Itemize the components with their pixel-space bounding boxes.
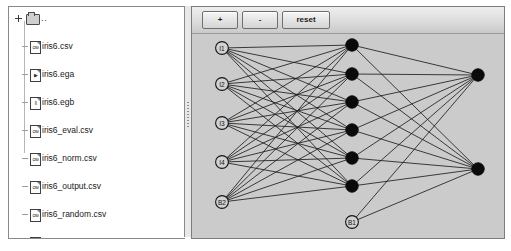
tree-item-label: iris6.csv xyxy=(42,39,73,53)
network-edge xyxy=(352,169,478,186)
node-label: I4 xyxy=(219,159,225,166)
hidden-node[interactable] xyxy=(346,124,358,136)
tree-item-label: iris6_train.csv xyxy=(42,235,94,239)
network-edge xyxy=(222,158,352,162)
file-icon-glyph: csv xyxy=(32,184,39,191)
zoom-in-button[interactable]: + xyxy=(202,11,238,29)
expand-collapse-handle[interactable] xyxy=(15,15,22,22)
csv-file-icon: csv xyxy=(30,41,41,54)
node-label: I2 xyxy=(219,81,225,88)
csv-file-icon: csv xyxy=(30,125,41,138)
tree-elbow xyxy=(22,214,28,215)
csv-file-icon: csv xyxy=(30,237,41,239)
network-edge xyxy=(352,75,478,222)
network-edge xyxy=(352,75,478,186)
node-label: O2 xyxy=(474,166,483,173)
tree-elbow xyxy=(22,186,28,187)
hidden-node[interactable] xyxy=(346,96,358,108)
network-edge xyxy=(352,74,478,75)
tree-item-label: iris6.egb xyxy=(42,95,74,109)
tree-item-label: iris6_output.csv xyxy=(42,179,101,193)
tree-item-7[interactable]: csviris6_train.csv xyxy=(9,235,185,239)
splitter-grip[interactable] xyxy=(187,102,189,128)
network-edge xyxy=(222,74,352,123)
tree-root-row[interactable]: .. xyxy=(9,11,185,25)
network-edge xyxy=(222,48,352,102)
node-label: I3 xyxy=(219,120,225,127)
tree-item-label: iris6_eval.csv xyxy=(42,123,93,137)
tree-elbow xyxy=(22,102,28,103)
network-edge xyxy=(352,169,478,222)
csv-file-icon: csv xyxy=(30,209,41,222)
tree-item-2[interactable]: ‖iris6.egb xyxy=(9,95,185,109)
tree-item-label: iris6.ega xyxy=(42,67,74,81)
network-edge xyxy=(352,45,478,169)
file-icon-glyph: csv xyxy=(32,156,39,163)
tree-elbow xyxy=(22,74,28,75)
network-edge xyxy=(222,158,352,202)
csv-file-icon: csv xyxy=(30,181,41,194)
hidden-node[interactable] xyxy=(346,68,358,80)
reset-view-button[interactable]: reset xyxy=(282,11,330,29)
node-label: B2 xyxy=(218,199,226,206)
hidden-node[interactable] xyxy=(346,152,358,164)
tree-item-4[interactable]: csviris6_norm.csv xyxy=(9,151,185,165)
application-window: ..csviris6.csv▶iris6.ega‖iris6.egbcsviri… xyxy=(0,0,511,251)
file-tree-list[interactable]: ..csviris6.csv▶iris6.ega‖iris6.egbcsviri… xyxy=(9,11,185,165)
file-tree-panel[interactable]: ..csviris6.csv▶iris6.ega‖iris6.egbcsviri… xyxy=(8,6,185,239)
hidden-node[interactable] xyxy=(346,39,358,51)
file-icon-glyph: csv xyxy=(32,212,39,219)
node-label: B1 xyxy=(348,219,356,226)
network-edge xyxy=(222,45,352,162)
tree-elbow xyxy=(22,46,28,47)
tree-item-0[interactable]: csviris6.csv xyxy=(9,39,185,53)
tree-elbow xyxy=(22,158,28,159)
csv-file-icon: csv xyxy=(30,153,41,166)
ega-file-icon: ▶ xyxy=(30,69,41,82)
tree-item-6[interactable]: csviris6_random.csv xyxy=(9,207,185,221)
network-edge xyxy=(352,75,478,158)
network-edge xyxy=(222,74,352,84)
file-icon-glyph: ▶ xyxy=(32,72,39,79)
egb-file-icon: ‖ xyxy=(30,97,41,110)
zoom-out-button[interactable]: - xyxy=(242,11,278,29)
network-edge xyxy=(222,84,352,158)
file-icon-glyph: csv xyxy=(32,128,39,135)
network-toolbar: + - reset xyxy=(192,7,504,34)
network-edge xyxy=(222,186,352,202)
network-edge xyxy=(222,48,352,74)
tree-item-5[interactable]: csviris6_output.csv xyxy=(9,179,185,193)
file-icon-glyph: csv xyxy=(32,44,39,51)
network-edge xyxy=(352,45,478,75)
network-edge xyxy=(222,102,352,123)
network-edge xyxy=(222,45,352,48)
node-label: O1 xyxy=(474,72,483,79)
tree-item-label: iris6_random.csv xyxy=(42,207,106,221)
folder-icon xyxy=(26,14,40,25)
tree-item-label: iris6_norm.csv xyxy=(42,151,97,165)
tree-item-3[interactable]: csviris6_eval.csv xyxy=(9,123,185,137)
tree-item-1[interactable]: ▶iris6.ega xyxy=(9,67,185,81)
node-label: I1 xyxy=(219,45,225,52)
tree-elbow xyxy=(22,130,28,131)
network-visualizer-panel: + - reset I1I2I3I4B2B1O1O2 xyxy=(191,6,505,239)
file-icon-glyph: ‖ xyxy=(32,100,39,107)
network-diagram-canvas[interactable]: I1I2I3I4B2B1O1O2 xyxy=(192,34,504,238)
tree-root-label: .. xyxy=(41,11,48,25)
hidden-node[interactable] xyxy=(346,180,358,192)
